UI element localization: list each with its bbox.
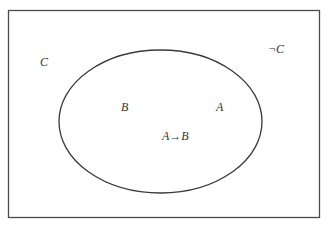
label-b: B: [121, 101, 128, 113]
diagram-shapes: [0, 0, 330, 233]
label-c: C: [40, 56, 48, 68]
label-a-implies-b: A→B: [162, 130, 189, 142]
label-a: A: [216, 101, 223, 113]
venn-diagram: C ¬C B A A→B: [0, 0, 330, 233]
label-not-c: ¬C: [268, 43, 284, 55]
set-ellipse: [59, 50, 262, 193]
